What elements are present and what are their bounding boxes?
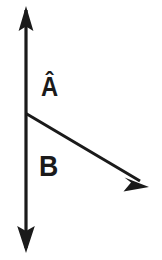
vector-canvas bbox=[0, 0, 162, 260]
vector-b-group bbox=[17, 6, 35, 253]
vector-diagram: Â B bbox=[0, 0, 162, 260]
vector-b-label: B bbox=[39, 152, 58, 181]
vector-a-hat-label: Â bbox=[41, 74, 57, 101]
